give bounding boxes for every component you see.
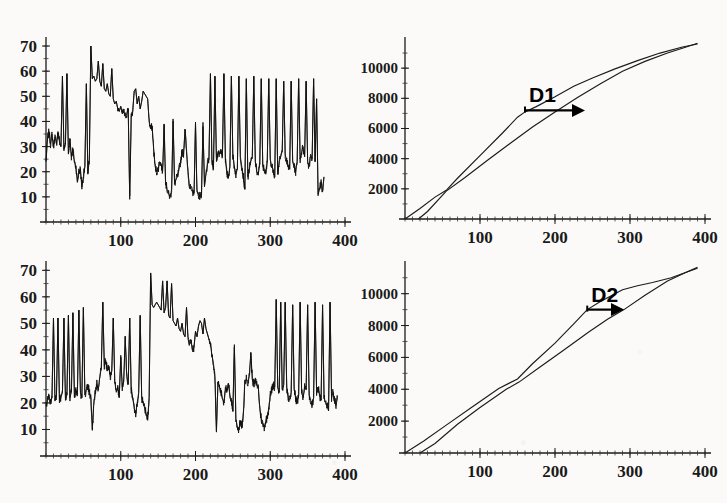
chart-bottom-left: 10203040506070100200300400 (0, 251, 364, 503)
x-axis-tick-label: 200 (183, 231, 209, 250)
x-axis-tick-label: 400 (332, 231, 358, 250)
y-axis-tick-label: 60 (20, 288, 37, 307)
y-axis-tick-label: 4000 (368, 381, 398, 397)
chart-top-left: 10203040506070100200300400 (0, 0, 364, 252)
series-line-1 (405, 44, 698, 219)
x-axis-tick-label: 300 (617, 228, 643, 247)
chart-top-right: 200040006000800010000100200300400D1 (364, 0, 727, 252)
x-axis-tick-label: 400 (692, 462, 718, 481)
y-axis-tick-label: 40 (20, 112, 37, 131)
panel-bottom-left: 10203040506070100200300400 (0, 251, 364, 503)
y-axis-tick-label: 20 (20, 163, 37, 182)
y-axis-tick-label: 10000 (361, 286, 399, 302)
y-axis-tick-label: 50 (20, 87, 37, 106)
x-axis-tick-label: 300 (617, 462, 643, 481)
x-axis-tick-label: 200 (542, 228, 568, 247)
y-axis-tick-label: 2000 (368, 413, 398, 429)
x-axis-tick-label: 100 (108, 465, 134, 484)
y-axis-tick-label: 10000 (361, 60, 399, 76)
x-axis-tick-label: 200 (183, 465, 209, 484)
lag-annotation-label: D2 (591, 283, 618, 306)
series-line-2 (420, 267, 698, 453)
y-axis-tick-label: 40 (20, 341, 37, 360)
y-axis-tick-label: 30 (20, 138, 37, 157)
y-axis-tick-label: 70 (20, 37, 37, 56)
x-axis-tick-label: 100 (467, 228, 493, 247)
x-axis-tick-label: 300 (258, 465, 284, 484)
x-axis-tick-label: 200 (542, 462, 568, 481)
lag-annotation: D2 (587, 283, 624, 317)
lag-annotation-label: D1 (529, 83, 556, 106)
x-axis-tick-label: 400 (332, 465, 358, 484)
y-axis-tick-label: 30 (20, 367, 37, 386)
y-axis-tick-label: 2000 (368, 181, 398, 197)
y-axis-tick-label: 50 (20, 314, 37, 333)
y-axis-tick-label: 4000 (368, 151, 398, 167)
figure-container: 10203040506070100200300400 2000400060008… (0, 0, 727, 503)
y-axis-tick-label: 10 (20, 188, 37, 207)
y-axis-tick-label: 60 (20, 62, 37, 81)
y-axis-tick-label: 70 (20, 261, 37, 280)
x-axis-tick-label: 400 (692, 228, 718, 247)
x-axis-tick-label: 100 (108, 231, 134, 250)
y-axis-tick-label: 6000 (368, 120, 398, 136)
panel-top-right: 200040006000800010000100200300400D1 (364, 0, 727, 252)
y-axis-tick-label: 10 (20, 420, 37, 439)
series-line-1 (405, 268, 698, 453)
series-noise-detail (46, 46, 324, 200)
panel-bottom-right: 200040006000800010000100200300400D2 (364, 251, 727, 503)
y-axis-tick-label: 8000 (368, 90, 398, 106)
y-axis-tick-label: 6000 (368, 349, 398, 365)
x-axis-tick-label: 100 (467, 462, 493, 481)
y-axis-tick-label: 8000 (368, 318, 398, 334)
y-axis-tick-label: 20 (20, 394, 37, 413)
x-axis-tick-label: 300 (258, 231, 284, 250)
panel-top-left: 10203040506070100200300400 (0, 0, 364, 252)
series-line-2 (419, 43, 698, 219)
series-line-1 (46, 46, 324, 199)
lag-arrow-head (572, 104, 585, 117)
chart-bottom-right: 200040006000800010000100200300400D2 (364, 251, 727, 503)
series-noise-detail (46, 273, 338, 433)
